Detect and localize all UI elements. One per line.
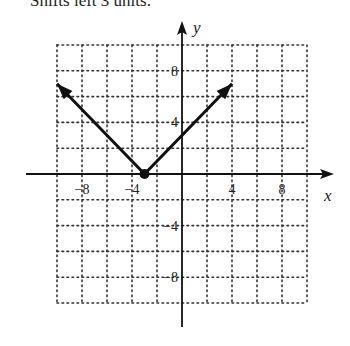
svg-text:4: 4 <box>229 182 236 197</box>
svg-text:−8: −8 <box>163 270 178 285</box>
svg-text:−4: −4 <box>163 219 178 234</box>
svg-text:−8: −8 <box>75 182 90 197</box>
axes <box>26 21 334 327</box>
graph-plot: −8−44884−4−8 x y <box>0 0 350 346</box>
svg-text:4: 4 <box>171 115 178 130</box>
function-graph <box>57 84 232 179</box>
x-axis-label: x <box>323 186 332 205</box>
svg-text:8: 8 <box>171 64 178 79</box>
svg-text:−4: −4 <box>125 182 140 197</box>
y-axis-label: y <box>191 18 201 37</box>
svg-text:8: 8 <box>279 182 286 197</box>
